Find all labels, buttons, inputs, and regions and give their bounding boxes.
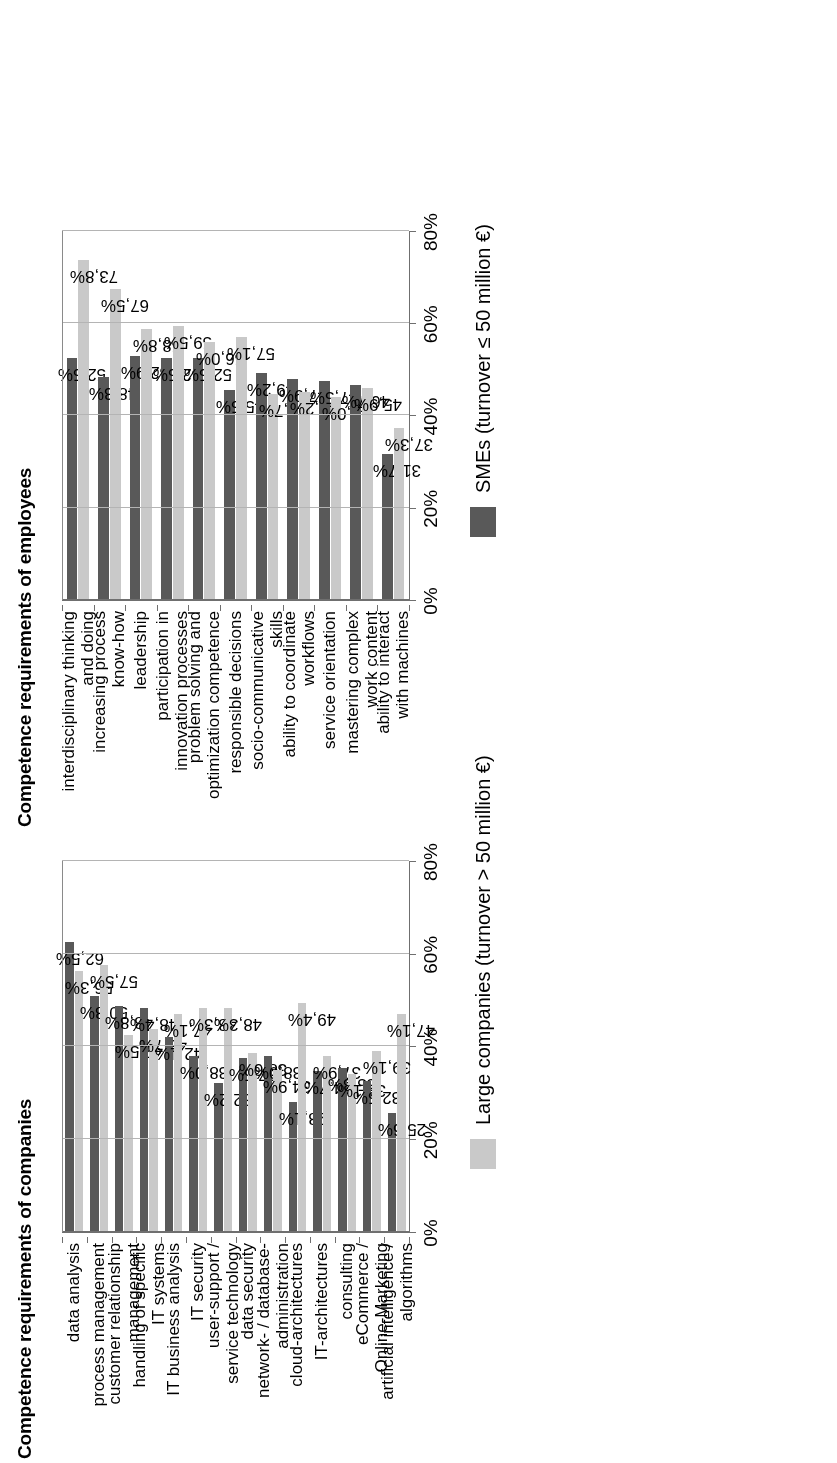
category-label: network- / database- administration xyxy=(254,1243,292,1398)
gridline xyxy=(62,860,409,861)
category-tick xyxy=(94,605,95,611)
bar-row: 73,8% xyxy=(78,231,89,600)
value-tick-mark xyxy=(409,861,416,862)
category-axis-employees: interdisciplinary thinking and doingincr… xyxy=(62,605,410,837)
bar-row: 25,6% xyxy=(388,861,396,1232)
category-tick xyxy=(62,1237,63,1243)
gridline xyxy=(62,230,409,231)
legend-employees: SMEs (turnover ≤ 50 million €) xyxy=(470,224,496,537)
category-tick xyxy=(251,605,252,611)
category-label: problem solving and optimization compete… xyxy=(185,611,223,799)
bar-row: 52,5% xyxy=(193,231,204,600)
plot-top-rule xyxy=(62,861,63,1232)
bar-group: 28,1%49,4% xyxy=(285,861,310,1232)
legend-swatch-sme xyxy=(470,507,496,537)
bar-large xyxy=(204,342,215,600)
bar-sme xyxy=(350,385,361,600)
bar-row: 42,1% xyxy=(165,861,173,1232)
category-label: increasing process know-how xyxy=(90,611,128,753)
category-label: IT-architectures xyxy=(313,1243,332,1360)
bar-row: 47,1% xyxy=(174,861,182,1232)
category-tick xyxy=(310,1237,311,1243)
bar-sme xyxy=(115,1006,123,1232)
value-tick-mark xyxy=(409,323,416,324)
gridline xyxy=(62,322,409,323)
category-label: user-support / service technology xyxy=(204,1243,242,1384)
category-tick xyxy=(359,1237,360,1243)
chart-employees: Competence requirements of employees int… xyxy=(0,205,837,837)
bar-row: 52,9% xyxy=(130,231,141,600)
bar-group: 48,8%42,5% xyxy=(112,861,137,1232)
bar-large xyxy=(100,965,108,1232)
value-tick-mark xyxy=(409,508,416,509)
value-tick-label: 20% xyxy=(420,490,442,528)
bar-row: 58,8% xyxy=(141,231,152,600)
category-tick xyxy=(346,605,347,611)
bar-row: 37,9% xyxy=(323,861,331,1232)
bar-sme xyxy=(224,390,235,600)
bar-row: 52,5% xyxy=(67,231,78,600)
gridline xyxy=(62,953,409,954)
bar-row: 46,7% xyxy=(350,231,361,600)
bar-large xyxy=(299,392,310,600)
bar-large xyxy=(372,1051,380,1232)
chart-title-employees: Competence requirements of employees xyxy=(14,468,36,827)
bar-row: 44,0% xyxy=(331,231,342,600)
bar-group: 50,8%57,5% xyxy=(87,861,112,1232)
bar-large xyxy=(124,1035,132,1232)
category-tick xyxy=(62,605,63,611)
gridline xyxy=(62,507,409,508)
bar-row: 28,1% xyxy=(289,861,297,1232)
bar-groups-companies: 62,5%56,3%50,8%57,5%48,8%42,5%48,4%43,7%… xyxy=(62,861,409,1232)
value-tick-mark xyxy=(409,600,416,601)
bar-sme xyxy=(165,1037,173,1232)
category-label: IT business analysis xyxy=(164,1243,183,1396)
bar-sme xyxy=(98,377,109,600)
category-tick xyxy=(409,605,410,611)
category-tick xyxy=(211,1237,212,1243)
value-tick-mark xyxy=(409,954,416,955)
bar-row: 42,5% xyxy=(124,861,132,1232)
plot-area-companies: 62,5%56,3%50,8%57,5%48,8%42,5%48,4%43,7%… xyxy=(62,861,410,1233)
value-axis-companies: 0%20%40%60%80% xyxy=(410,861,450,1233)
bar-sme xyxy=(90,996,98,1232)
bar-row: 34,1% xyxy=(348,861,356,1232)
category-label: ability to interact with machines xyxy=(374,611,412,734)
bar-row: 32,2% xyxy=(214,861,222,1232)
bar-row: 37,3% xyxy=(394,231,405,600)
bar-group: 62,5%56,3% xyxy=(62,861,87,1232)
category-tick xyxy=(285,1237,286,1243)
bar-row: 38,6% xyxy=(248,861,256,1232)
chart-title-companies: Competence requirements of companies xyxy=(14,1099,36,1459)
value-tick-mark xyxy=(409,1232,416,1233)
bar-row: 67,5% xyxy=(110,231,121,600)
bar-group: 31,7%37,3% xyxy=(377,231,409,600)
value-tick-label: 40% xyxy=(420,1028,442,1066)
bar-group: 32,5%39,1% xyxy=(359,861,384,1232)
category-tick xyxy=(384,1237,385,1243)
bar-row: 56,3% xyxy=(75,861,83,1232)
bar-large xyxy=(298,1003,306,1232)
category-label: ability to coordinate workflows xyxy=(280,611,318,757)
bar-row: 38,0% xyxy=(189,861,197,1232)
bar-group: 34,7%37,9% xyxy=(310,861,335,1232)
category-tick xyxy=(186,1237,187,1243)
bar-sme xyxy=(67,358,78,600)
legend-label-sme: SMEs (turnover ≤ 50 million €) xyxy=(472,224,495,493)
bar-row: 59,5% xyxy=(173,231,184,600)
bar-group: 45,5%57,1% xyxy=(220,231,252,600)
value-tick-label: 0% xyxy=(420,1219,442,1246)
category-tick xyxy=(260,1237,261,1243)
category-tick xyxy=(236,1237,237,1243)
gridline xyxy=(62,1231,409,1232)
bar-row: 48,3% xyxy=(224,861,232,1232)
category-tick xyxy=(314,605,315,611)
bar-row: 57,1% xyxy=(236,231,247,600)
gridline xyxy=(62,599,409,600)
bar-row: 50,8% xyxy=(90,861,98,1232)
bar-row: 35,3% xyxy=(338,861,346,1232)
bar-row: 57,5% xyxy=(100,861,108,1232)
category-label: handling of specific IT systems xyxy=(130,1243,168,1388)
bar-large xyxy=(362,388,373,600)
bar-group: 38,0%34,9% xyxy=(260,861,285,1232)
